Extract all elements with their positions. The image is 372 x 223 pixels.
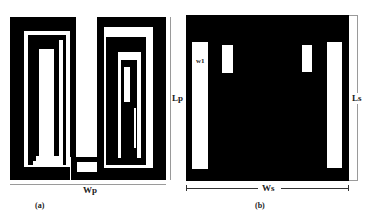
- right-spiral-tail: [134, 108, 136, 148]
- left-spiral-center: [39, 49, 54, 166]
- ws-tick-left: [186, 185, 187, 191]
- ls-tick-bottom: [349, 180, 358, 181]
- lp-label: Lp: [172, 94, 183, 103]
- w1-label: w1: [196, 58, 205, 65]
- wp-label: Wp: [83, 186, 97, 195]
- center-bottom-slot: [77, 162, 98, 172]
- ws-tick-right: [348, 185, 349, 191]
- ws-label: Ws: [262, 184, 275, 193]
- slot-right-small: [302, 45, 312, 72]
- left-spiral-notch: [33, 156, 36, 161]
- ls-tick-top: [349, 15, 358, 16]
- connector-divider-left: [70, 157, 71, 180]
- right-spiral-center: [124, 67, 130, 102]
- ws-dimension-line-right: [281, 188, 349, 189]
- slot-left-small: [222, 45, 233, 73]
- caption-b: (b): [255, 201, 265, 210]
- caption-a: (a): [35, 201, 44, 210]
- right-spiral-top-bar: [119, 52, 135, 59]
- ground-plane: [186, 15, 349, 181]
- ls-label: Ls: [352, 93, 362, 104]
- ws-dimension-line-left: [186, 188, 258, 189]
- slot-right-tall: [327, 42, 342, 168]
- lp-dimension-line: [170, 17, 171, 180]
